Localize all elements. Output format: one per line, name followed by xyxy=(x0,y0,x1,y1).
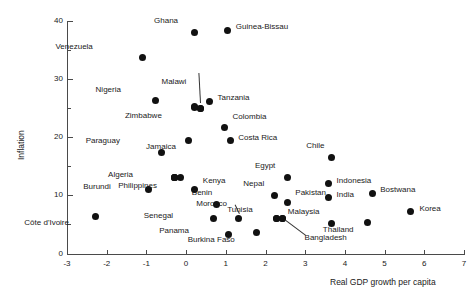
y-tick-label: 10 xyxy=(41,190,63,199)
x-tick-label: -1 xyxy=(134,259,158,268)
y-tick xyxy=(68,21,73,22)
data-point[interactable] xyxy=(210,215,217,222)
data-point-label: Kenya xyxy=(203,176,226,185)
x-tick xyxy=(424,250,425,255)
data-point[interactable] xyxy=(177,174,184,181)
x-tick-label: -2 xyxy=(95,259,119,268)
data-point-label: Tunisia xyxy=(227,205,253,214)
data-point-label: Colombia xyxy=(233,112,267,121)
x-tick-label: 6 xyxy=(412,259,436,268)
data-point-label: Nepal xyxy=(243,179,264,188)
x-tick xyxy=(464,250,465,255)
data-point[interactable] xyxy=(92,213,99,220)
data-point-label: Ghana xyxy=(154,16,178,25)
data-point-label: Burkina Faso xyxy=(188,235,235,244)
x-tick-label: 7 xyxy=(452,259,471,268)
data-point-label: Korea xyxy=(419,204,440,213)
data-point[interactable] xyxy=(224,27,231,34)
data-point[interactable] xyxy=(364,219,371,226)
scatter-chart-figure: -3-2-101234567010203040GhanaGuinea-Bissa… xyxy=(0,0,471,299)
y-tick-label: 30 xyxy=(41,74,63,83)
data-point-label: Morocco xyxy=(196,199,227,208)
x-tick xyxy=(186,250,187,255)
data-point-label: Tanzania xyxy=(218,93,250,102)
data-point-label: Guinea-Bissau xyxy=(236,22,288,31)
y-tick xyxy=(68,137,73,138)
data-point[interactable] xyxy=(191,29,198,36)
x-tick-label: 1 xyxy=(214,259,238,268)
data-point[interactable] xyxy=(328,154,335,161)
x-tick xyxy=(305,250,306,255)
x-tick xyxy=(226,250,227,255)
data-point-label: Algeria xyxy=(108,170,133,179)
x-tick xyxy=(385,250,386,255)
data-point[interactable] xyxy=(206,98,213,105)
data-point-label: Bangladesh xyxy=(305,233,347,242)
x-axis-title: Real GDP growth per capita xyxy=(330,277,436,287)
data-point-label: Panama xyxy=(159,226,189,235)
y-minor-tick xyxy=(68,108,71,109)
data-point-label: Philippines xyxy=(118,181,157,190)
data-point-label: Nigeria xyxy=(96,85,121,94)
data-point[interactable] xyxy=(284,174,291,181)
x-tick xyxy=(266,250,267,255)
y-tick-label: 20 xyxy=(41,132,63,141)
data-point-label: Egypt xyxy=(255,161,275,170)
y-tick xyxy=(68,254,73,255)
y-tick-label: 40 xyxy=(41,16,63,25)
data-point[interactable] xyxy=(325,194,332,201)
data-point-label: Chile xyxy=(306,141,324,150)
y-tick xyxy=(68,195,73,196)
data-point[interactable] xyxy=(253,229,260,236)
data-point-label: Benin xyxy=(192,188,212,197)
data-point[interactable] xyxy=(369,190,376,197)
data-point-label: India xyxy=(337,190,354,199)
x-tick-label: 3 xyxy=(293,259,317,268)
data-point[interactable] xyxy=(407,208,414,215)
y-axis-title: Inflation xyxy=(16,130,26,160)
data-point-label: Paraguay xyxy=(86,136,120,145)
x-tick-label: -3 xyxy=(55,259,79,268)
data-point[interactable] xyxy=(221,124,228,131)
data-point[interactable] xyxy=(185,137,192,144)
data-point[interactable] xyxy=(271,192,278,199)
data-point-label: Venezuela xyxy=(55,42,92,51)
x-tick xyxy=(345,250,346,255)
x-tick-label: 2 xyxy=(254,259,278,268)
data-point-label: Senegal xyxy=(144,211,173,220)
data-point-label: Costa Rica xyxy=(238,133,277,142)
data-point[interactable] xyxy=(152,97,159,104)
bangladesh-leader-line xyxy=(285,220,305,235)
data-point[interactable] xyxy=(227,137,234,144)
x-tick-label: 0 xyxy=(174,259,198,268)
data-point-label: Malawi xyxy=(162,77,187,86)
data-point-label: Bostwana xyxy=(380,185,415,194)
data-point-label: Côte d'Ivoire xyxy=(24,218,69,227)
data-point-label: Jamaica xyxy=(146,142,176,151)
x-tick-label: 5 xyxy=(373,259,397,268)
plot-area: -3-2-101234567010203040GhanaGuinea-Bissa… xyxy=(0,0,471,299)
data-point-label: Zimbabwe xyxy=(125,111,162,120)
data-point[interactable] xyxy=(325,180,332,187)
data-point-label: Indonesia xyxy=(337,176,372,185)
data-point-label: Burundi xyxy=(83,182,111,191)
y-tick xyxy=(68,79,73,80)
data-point-label: Pakistan xyxy=(295,188,326,197)
data-point[interactable] xyxy=(284,199,291,206)
data-point[interactable] xyxy=(235,215,242,222)
y-tick-label: 0 xyxy=(41,249,63,258)
x-tick xyxy=(107,250,108,255)
x-tick-label: 4 xyxy=(333,259,357,268)
y-minor-tick xyxy=(68,166,71,167)
data-point[interactable] xyxy=(139,54,146,61)
data-point-label: Thailand xyxy=(323,225,354,234)
malawi-leader-line xyxy=(199,73,202,103)
data-point-label: Malaysia xyxy=(288,207,320,216)
x-tick xyxy=(146,250,147,255)
